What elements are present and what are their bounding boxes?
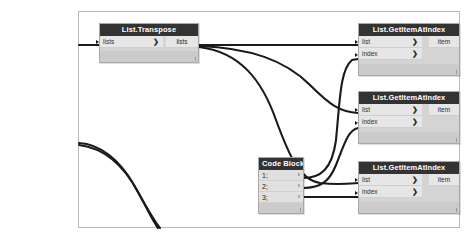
screenshot-root: List.Transpose lists ❯ lists List.GetIte…	[0, 0, 476, 238]
port-label: list	[359, 176, 370, 183]
resize-handle-icon[interactable]	[453, 70, 457, 74]
port-in-index[interactable]: index ❯	[359, 186, 422, 198]
port-in-list[interactable]: list ❯	[359, 174, 422, 186]
port-out-item[interactable]: item	[429, 174, 459, 186]
chevron-right-icon: ❯	[412, 118, 422, 125]
node-footer	[359, 64, 459, 75]
port-label: list	[359, 38, 370, 45]
chevron-right-icon: ›	[298, 194, 303, 201]
port-label: index	[359, 118, 378, 125]
node-title: List.Transpose	[100, 24, 198, 36]
port-connector-list-icon	[355, 40, 358, 44]
node-body: list ❯ index ❯ item	[359, 174, 459, 202]
node-title: Code Block	[259, 158, 303, 170]
node-footer	[359, 202, 459, 213]
port-connector-index-icon	[355, 191, 358, 195]
port-out-lists[interactable]: lists	[166, 36, 198, 48]
chevron-right-icon: ›	[298, 183, 303, 190]
node-list-getitematindex-3[interactable]: List.GetItemAtIndex list ❯ index ❯ item	[358, 161, 460, 214]
resize-handle-icon[interactable]	[453, 208, 457, 212]
node-list-getitematindex-1[interactable]: List.GetItemAtIndex list ❯ index ❯ item	[358, 23, 460, 76]
resize-handle-icon[interactable]	[297, 208, 301, 212]
chevron-right-icon: ›	[298, 172, 303, 179]
resize-handle-icon[interactable]	[453, 138, 457, 142]
node-body: 1; › 2; › 3; ›	[259, 170, 303, 203]
chevron-right-icon: ❯	[412, 38, 422, 45]
port-label: item	[438, 106, 450, 113]
node-code-block[interactable]: Code Block 1; › 2; › 3; ›	[258, 157, 304, 214]
code-line[interactable]: 2; ›	[259, 181, 303, 192]
code-line[interactable]: 1; ›	[259, 170, 303, 181]
port-in-index[interactable]: index ❯	[359, 48, 422, 60]
node-footer	[359, 132, 459, 143]
port-in-list[interactable]: list ❯	[359, 104, 422, 116]
port-label: item	[438, 176, 450, 183]
port-label: item	[438, 38, 450, 45]
node-footer	[259, 203, 303, 213]
node-body: list ❯ index ❯ item	[359, 36, 459, 64]
port-connector-list-icon	[355, 178, 358, 182]
node-footer	[100, 51, 198, 62]
code-line[interactable]: 3; ›	[259, 192, 303, 203]
node-body: lists ❯ lists	[100, 36, 198, 51]
port-label: index	[359, 188, 378, 195]
code-line-text: 3;	[259, 194, 268, 201]
chevron-right-icon: ❯	[412, 50, 422, 57]
port-connector-list-icon	[355, 108, 358, 112]
node-list-getitematindex-2[interactable]: List.GetItemAtIndex list ❯ index ❯ item	[358, 91, 460, 144]
port-in-lists[interactable]: lists ❯	[100, 36, 163, 48]
port-label: index	[359, 50, 378, 57]
node-title: List.GetItemAtIndex	[359, 24, 459, 36]
chevron-right-icon: ❯	[412, 188, 422, 195]
node-title: List.GetItemAtIndex	[359, 162, 459, 174]
code-line-text: 2;	[259, 183, 268, 190]
port-label: lists	[176, 38, 187, 45]
port-connector-index-icon	[355, 53, 358, 57]
port-in-list[interactable]: list ❯	[359, 36, 422, 48]
port-label: lists	[100, 38, 114, 45]
chevron-right-icon: ❯	[412, 176, 422, 183]
chevron-right-icon: ❯	[153, 38, 163, 45]
port-in-index[interactable]: index ❯	[359, 116, 422, 128]
port-out-item[interactable]: item	[429, 104, 459, 116]
port-connector-in-icon	[96, 40, 99, 44]
node-body: list ❯ index ❯ item	[359, 104, 459, 132]
port-out-item[interactable]: item	[429, 36, 459, 48]
chevron-right-icon: ❯	[412, 106, 422, 113]
node-title: List.GetItemAtIndex	[359, 92, 459, 104]
port-connector-index-icon	[355, 121, 358, 125]
port-label: list	[359, 106, 370, 113]
code-line-text: 1;	[259, 172, 268, 179]
node-list-transpose[interactable]: List.Transpose lists ❯ lists	[99, 23, 199, 63]
resize-handle-icon[interactable]	[192, 57, 196, 61]
